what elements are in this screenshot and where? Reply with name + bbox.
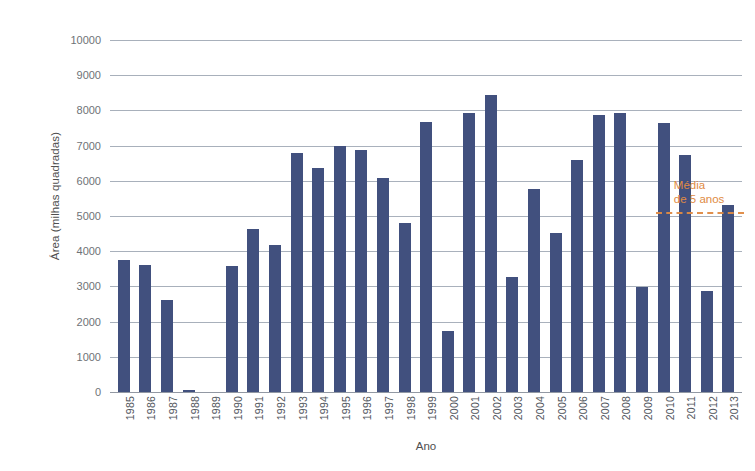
- x-tick-slot: 1991: [243, 394, 265, 442]
- bar-slot: [696, 40, 718, 392]
- bar[interactable]: [442, 331, 454, 392]
- bar-slot: [156, 40, 178, 392]
- bar-slot: [178, 40, 200, 392]
- x-tick-slot: 2007: [588, 394, 610, 442]
- average-label-line-1: Média: [674, 178, 725, 192]
- x-tick-slot: 2001: [459, 394, 481, 442]
- x-tick-slot: 2002: [480, 394, 502, 442]
- x-axis-tick-labels: 1985198619871988198919901991199219931994…: [110, 394, 742, 442]
- bar-slot: [372, 40, 394, 392]
- bar[interactable]: [183, 390, 195, 392]
- bar-slot: [415, 40, 437, 392]
- bar-slot: [113, 40, 135, 392]
- x-axis-tick-label: 2013: [728, 396, 740, 420]
- y-axis-tick-label: 8000: [77, 104, 101, 116]
- bar[interactable]: [355, 150, 367, 392]
- y-axis-tick-label: 7000: [77, 140, 101, 152]
- bar[interactable]: [636, 287, 648, 392]
- y-axis-tick-label: 3000: [77, 280, 101, 292]
- bar-slot: [459, 40, 481, 392]
- x-tick-slot: 2012: [696, 394, 718, 442]
- bar-slot: [502, 40, 524, 392]
- bar-slot: [243, 40, 265, 392]
- bar[interactable]: [571, 160, 583, 392]
- bar-slot: [566, 40, 588, 392]
- x-tick-slot: 1994: [307, 394, 329, 442]
- bar[interactable]: [420, 122, 432, 392]
- average-label-line-2: de 5 anos: [674, 192, 725, 206]
- bar-slot: [631, 40, 653, 392]
- x-tick-slot: 2003: [502, 394, 524, 442]
- bar[interactable]: [463, 113, 475, 392]
- bar-slot: [135, 40, 157, 392]
- bar[interactable]: [550, 233, 562, 392]
- bar[interactable]: [593, 115, 605, 392]
- x-tick-slot: 1995: [329, 394, 351, 442]
- x-tick-slot: 1989: [199, 394, 221, 442]
- x-tick-slot: 2008: [610, 394, 632, 442]
- bar[interactable]: [399, 223, 411, 392]
- bar[interactable]: [614, 113, 626, 392]
- bar-slot: [545, 40, 567, 392]
- bar-slot: [523, 40, 545, 392]
- bar[interactable]: [226, 266, 238, 392]
- x-tick-slot: 1997: [372, 394, 394, 442]
- y-axis-tick-label: 0: [95, 386, 101, 398]
- bar-slot: [610, 40, 632, 392]
- bars-container: [110, 40, 742, 392]
- x-tick-slot: 2004: [523, 394, 545, 442]
- x-axis-title: Ano: [110, 440, 742, 452]
- bar[interactable]: [269, 245, 281, 392]
- bar-slot: [480, 40, 502, 392]
- x-tick-slot: 1992: [264, 394, 286, 442]
- y-axis-tick-label: 6000: [77, 175, 101, 187]
- y-axis-title: Área (milhas quadradas): [44, 0, 66, 392]
- bar[interactable]: [291, 153, 303, 392]
- x-tick-slot: 1985: [113, 394, 135, 442]
- bar-slot: [307, 40, 329, 392]
- bar-slot: [588, 40, 610, 392]
- average-line: [656, 212, 744, 214]
- bar[interactable]: [485, 95, 497, 392]
- bar-slot: [264, 40, 286, 392]
- bar-slot: [394, 40, 416, 392]
- bar[interactable]: [161, 300, 173, 392]
- y-axis-tick-label: 5000: [77, 210, 101, 222]
- bar-slot: [674, 40, 696, 392]
- bar-slot: [286, 40, 308, 392]
- x-tick-slot: 1999: [415, 394, 437, 442]
- bar-chart: Área (milhas quadradas) 1000090008000700…: [0, 0, 755, 471]
- bar[interactable]: [722, 205, 734, 392]
- x-tick-slot: 2009: [631, 394, 653, 442]
- x-tick-slot: 1993: [286, 394, 308, 442]
- y-axis-tick-label: 1000: [77, 351, 101, 363]
- bar-slot: [718, 40, 740, 392]
- plot-area: 1000090008000700060005000400030002000100…: [110, 40, 742, 392]
- bar[interactable]: [658, 123, 670, 392]
- bar[interactable]: [247, 229, 259, 392]
- x-tick-slot: 2013: [718, 394, 740, 442]
- y-axis-tick-label: 9000: [77, 69, 101, 81]
- x-tick-slot: 2010: [653, 394, 675, 442]
- x-tick-slot: 2006: [566, 394, 588, 442]
- bar[interactable]: [312, 168, 324, 392]
- y-axis-tick-label: 10000: [70, 34, 101, 46]
- bar[interactable]: [377, 178, 389, 392]
- y-axis-tick-label: 4000: [77, 245, 101, 257]
- bar[interactable]: [139, 265, 151, 392]
- bar-slot: [329, 40, 351, 392]
- x-axis-baseline: 0: [110, 392, 742, 393]
- x-tick-slot: 1987: [156, 394, 178, 442]
- bar-slot: [199, 40, 221, 392]
- bar[interactable]: [118, 260, 130, 392]
- bar[interactable]: [334, 146, 346, 392]
- x-tick-slot: 1996: [351, 394, 373, 442]
- bar[interactable]: [506, 277, 518, 392]
- x-tick-slot: 2011: [674, 394, 696, 442]
- y-axis-tick-label: 2000: [77, 316, 101, 328]
- bar[interactable]: [528, 189, 540, 392]
- x-tick-slot: 1988: [178, 394, 200, 442]
- x-tick-slot: 2005: [545, 394, 567, 442]
- bar[interactable]: [701, 291, 713, 392]
- x-tick-slot: 2000: [437, 394, 459, 442]
